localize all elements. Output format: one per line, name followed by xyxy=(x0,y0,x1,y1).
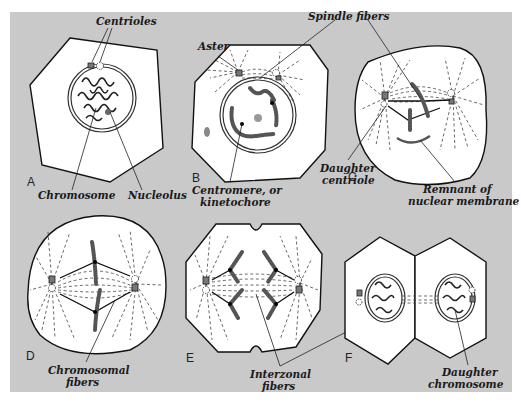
label-aster: Aster xyxy=(197,40,231,52)
panel-c: Daughter centriole Remnant of nuclear me… xyxy=(319,20,520,207)
label-nuclear-membrane: nuclear membrane xyxy=(408,195,520,207)
label-remnant-of: Remnant of xyxy=(422,183,494,195)
panel-d: Chromosomal fibers D xyxy=(26,216,166,388)
panel-letter-c: C xyxy=(348,170,357,184)
label-chromosomal: Chromosomal xyxy=(48,364,129,376)
panel-a: Centrioles Chromosome Nucleolus A xyxy=(27,15,187,201)
label-spindle-fibers: Spindle fibers xyxy=(308,10,389,22)
label-daughter-f: Daughter xyxy=(441,366,499,378)
panel-letter-d: D xyxy=(26,349,35,363)
panel-f: Daughter chromosome F xyxy=(345,237,504,390)
label-kinetochore: kinetochore xyxy=(200,196,271,208)
centriole-icon xyxy=(97,63,104,70)
panel-letter-f: F xyxy=(345,351,352,365)
centriole-icon xyxy=(88,63,94,68)
panel-letter-a: A xyxy=(27,175,35,189)
mitosis-diagram: Centrioles Chromosome Nucleolus A Aster … xyxy=(0,0,521,411)
label-centromere: Centromere, or xyxy=(192,184,283,196)
centriole-icon xyxy=(382,92,388,99)
label-chromosome: Chromosome xyxy=(38,189,116,201)
panel-letter-e: E xyxy=(186,351,194,365)
panel-letter-b: B xyxy=(192,171,200,185)
label-nucleolus: Nucleolus xyxy=(127,189,187,201)
aster-centriole-icon xyxy=(236,70,242,76)
label-chromosome-f: chromosome xyxy=(428,378,504,390)
label-fibers-e: fibers xyxy=(261,380,295,392)
label-centrioles: Centrioles xyxy=(96,15,157,27)
panel-e: Interzonal fibers E xyxy=(186,224,350,392)
label-fibers-d: fibers xyxy=(65,376,99,388)
cell-a xyxy=(30,38,163,182)
label-interzonal: Interzonal xyxy=(249,368,311,380)
cell-b xyxy=(192,45,328,182)
